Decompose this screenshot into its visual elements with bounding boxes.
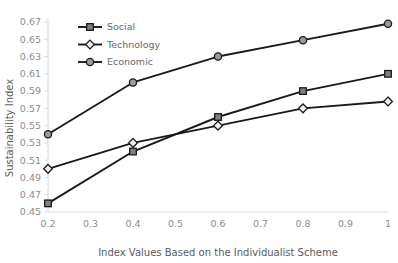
x-tick-label: 0.8 <box>295 218 310 229</box>
circle-marker <box>129 79 136 86</box>
y-tick-label: 0.47 <box>20 189 41 200</box>
square-marker <box>385 71 392 78</box>
square-marker <box>45 200 52 207</box>
y-tick-label: 0.59 <box>20 85 41 96</box>
y-tick-label: 0.51 <box>20 155 41 166</box>
legend-label: Technology <box>106 39 161 50</box>
x-tick-label: 0.4 <box>125 218 140 229</box>
y-tick-label: 0.57 <box>20 103 41 114</box>
x-tick-label: 0.6 <box>210 218 225 229</box>
y-tick-label: 0.67 <box>20 16 41 27</box>
y-tick-label: 0.55 <box>20 120 41 131</box>
y-tick-label: 0.63 <box>20 51 41 62</box>
circle-marker <box>299 37 306 44</box>
x-tick-label: 0.2 <box>40 218 55 229</box>
x-axis-title: Index Values Based on the Individualist … <box>98 247 338 258</box>
x-axis-tick-labels: 0.20.30.40.50.60.70.80.91 <box>40 218 391 229</box>
y-tick-label: 0.45 <box>20 206 41 217</box>
sustainability-index-line-chart: 0.450.470.490.510.530.550.570.590.610.63… <box>0 0 398 263</box>
legend-label: Economic <box>107 56 153 67</box>
circle-marker <box>86 58 93 65</box>
circle-marker <box>214 53 221 60</box>
y-tick-label: 0.53 <box>20 137 41 148</box>
circle-marker <box>44 131 51 138</box>
legend-label: Social <box>107 21 135 32</box>
square-marker <box>215 114 222 121</box>
x-tick-label: 0.5 <box>168 218 183 229</box>
square-marker <box>300 88 307 95</box>
x-tick-label: 0.7 <box>253 218 268 229</box>
y-tick-label: 0.65 <box>20 34 41 45</box>
y-tick-label: 0.49 <box>20 172 41 183</box>
x-tick-label: 0.9 <box>338 218 353 229</box>
circle-marker <box>384 20 391 27</box>
square-marker <box>130 148 137 155</box>
legend-item-economic[interactable]: Economic <box>78 56 153 67</box>
x-tick-label: 0.3 <box>83 218 98 229</box>
chart-canvas: 0.450.470.490.510.530.550.570.590.610.63… <box>0 0 398 263</box>
y-axis-title: Sustainability Index <box>4 79 15 178</box>
y-tick-label: 0.61 <box>20 68 41 79</box>
legend-item-technology[interactable]: Technology <box>78 39 161 50</box>
x-tick-label: 1 <box>385 218 391 229</box>
square-marker <box>87 24 94 31</box>
